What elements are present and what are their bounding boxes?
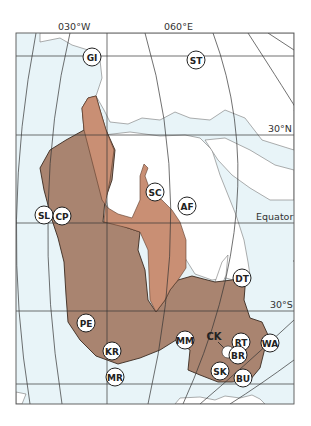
site-label: DT [235, 274, 249, 284]
site-label: WA [262, 339, 279, 349]
site-marker-pe: PE [77, 314, 95, 332]
label-equator: Equator [256, 211, 293, 222]
site-marker-dt: DT [233, 269, 251, 287]
site-marker-sl: SL [35, 206, 53, 224]
label-30s: 30°S [270, 299, 293, 310]
label-030w: 030°W [58, 21, 91, 32]
site-marker-br: BR [229, 346, 247, 364]
site-marker-bu: BU [234, 369, 252, 387]
site-label: CP [55, 212, 69, 222]
site-label: KR [105, 347, 119, 357]
site-marker-mm: MM [176, 331, 194, 349]
site-marker-sk: SK [211, 362, 229, 380]
label-30n: 30°N [268, 123, 292, 134]
site-label-ck: CK [206, 331, 222, 342]
site-label: SK [213, 367, 227, 377]
site-marker-cp: CP [53, 207, 71, 225]
site-label: BR [231, 351, 245, 361]
site-marker-mr: MR [106, 368, 124, 386]
site-marker-wa: WA [261, 334, 279, 352]
site-label: AF [180, 202, 193, 212]
site-marker-st: ST [187, 51, 205, 69]
site-label: GI [87, 53, 98, 63]
site-label: MR [107, 373, 123, 383]
site-marker-kr: KR [103, 342, 121, 360]
site-marker-af: AF [178, 197, 196, 215]
site-label: BU [236, 374, 250, 384]
site-label: SC [148, 188, 161, 198]
site-marker-sc: SC [146, 183, 164, 201]
label-060e: 060°E [164, 21, 193, 32]
site-label: ST [190, 56, 203, 66]
site-label: PE [80, 319, 93, 329]
site-label: MM [176, 336, 194, 346]
paleogeographic-map: 030°W 060°E 30°N Equator 30°S CK GISTSCA… [0, 0, 311, 426]
site-label: SL [38, 211, 50, 221]
site-marker-gi: GI [83, 48, 101, 66]
